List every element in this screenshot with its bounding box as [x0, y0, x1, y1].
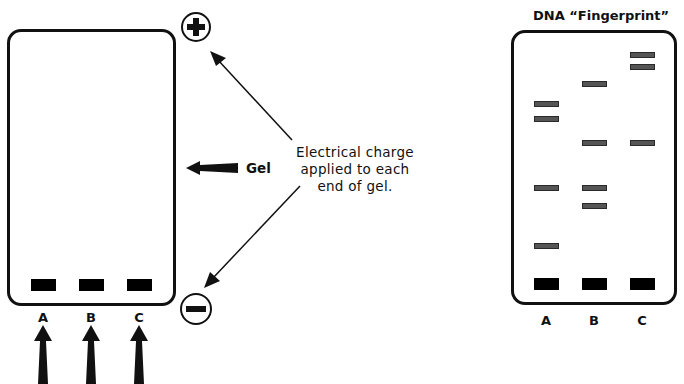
electrical-charge-callout: Electrical charge applied to each end of… [290, 144, 420, 195]
callout-line-3: end of gel. [290, 178, 420, 195]
gel-label: Gel [246, 160, 271, 176]
fingerprint-gel [511, 30, 677, 305]
fingerprint-well-a [534, 278, 559, 290]
band-a-2 [534, 116, 559, 122]
fingerprint-title: DNA “Fingerprint” [533, 8, 669, 23]
band-a-1 [534, 101, 559, 107]
well-b [79, 279, 104, 291]
band-b-2 [582, 140, 607, 146]
band-b-4 [582, 203, 607, 209]
loading-arrow-b-icon [82, 325, 100, 384]
callout-line-2: applied to each [290, 161, 420, 178]
loading-arrow-c-icon [130, 325, 148, 384]
band-b-3 [582, 185, 607, 191]
fingerprint-lane-label-b: B [584, 313, 604, 328]
fingerprint-well-c [630, 278, 655, 290]
lane-label-b: B [81, 310, 101, 325]
well-a [31, 279, 56, 291]
band-b-1 [582, 81, 607, 87]
gel-chamber [7, 29, 176, 306]
band-c-3 [630, 140, 655, 146]
callout-line-1: Electrical charge [290, 144, 420, 161]
band-a-4 [534, 243, 559, 249]
band-c-1 [630, 52, 655, 58]
well-c [127, 279, 152, 291]
arrow-to-negative-icon [204, 186, 300, 288]
fingerprint-lane-label-c: C [632, 313, 652, 328]
fingerprint-lane-label-a: A [536, 313, 556, 328]
positive-terminal-icon [182, 13, 210, 41]
lane-label-c: C [129, 310, 149, 325]
arrow-to-positive-icon [210, 51, 292, 140]
fingerprint-well-b [582, 278, 607, 290]
band-a-3 [534, 185, 559, 191]
band-c-2 [630, 64, 655, 70]
loading-arrow-a-icon [34, 325, 52, 384]
gel-pointer-arrow-icon [186, 161, 238, 175]
negative-terminal-icon [181, 294, 211, 324]
lane-label-a: A [33, 310, 53, 325]
